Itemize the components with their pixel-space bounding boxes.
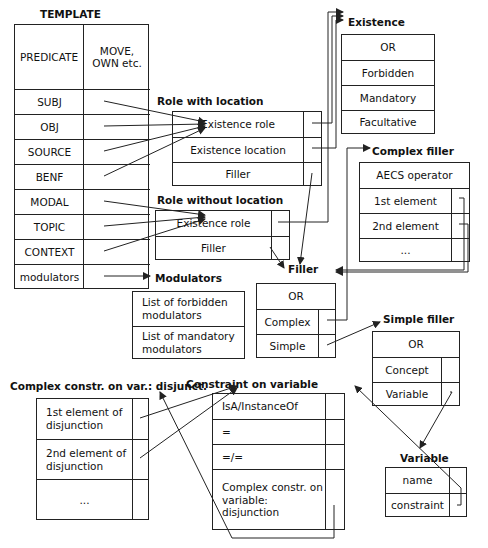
existence-title: Existence — [348, 16, 405, 28]
template-header-row: PREDICATE MOVE, OWN etc. — [15, 25, 150, 89]
complex-constr-divider — [132, 399, 133, 519]
role-with-location-divider — [303, 112, 304, 185]
cov-row-not-equals: =/= — [213, 444, 325, 469]
existence-box: OR Forbidden Mandatory Facultative — [341, 34, 435, 134]
template-right-cells — [84, 89, 150, 289]
constraint-on-variable-divider — [325, 394, 326, 529]
arrow-rwl-existence-role-to-existence — [312, 16, 343, 123]
sf-row-or: OR — [373, 332, 459, 357]
cc-row-2nd-element: 2nd element of disjunction — [37, 439, 132, 479]
cc-row-ellipsis: ... — [37, 479, 132, 520]
cc-row-1st-element: 1st element of disjunction — [37, 399, 132, 439]
cov-row-equals: = — [213, 419, 325, 444]
modulators-title: Modulators — [155, 272, 222, 284]
constraint-on-variable-title: Constraint on variable — [186, 378, 318, 390]
complex-filler-divider — [451, 188, 452, 261]
predicate-value: MOVE, OWN etc. — [84, 25, 150, 89]
rwl-row-existence-location: Existence location — [173, 137, 303, 162]
cov-row-complex-constr: Complex constr. on variable: disjunction — [213, 469, 325, 530]
existence-row-mandatory: Mandatory — [342, 85, 434, 110]
simple-filler-box: OR Concept Variable — [372, 331, 460, 406]
variable-box: name constraint — [385, 467, 467, 517]
simple-filler-title: Simple filler — [383, 313, 454, 325]
complex-constr-title: Complex constr. on var.: disjunct. — [10, 380, 207, 392]
cov-row-isa: IsA/InstanceOf — [213, 394, 325, 419]
template-title: TEMPLATE — [40, 8, 101, 20]
cf-row-aecs-operator: AECS operator — [360, 163, 469, 188]
rwl-row-filler: Filler — [173, 162, 303, 186]
template-row-context: CONTEXT — [15, 239, 84, 264]
filler-row-or: OR — [257, 284, 335, 309]
filler-row-complex: Complex — [257, 309, 318, 334]
role-with-location-box: Existence role Existence location Filler — [172, 111, 322, 186]
var-row-name: name — [386, 468, 449, 493]
role-without-location-box: Existence role Filler — [155, 210, 290, 260]
template-row-benf: BENF — [15, 164, 84, 189]
predicate-label: PREDICATE — [15, 25, 83, 89]
complex-constr-box: 1st element of disjunction 2nd element o… — [36, 398, 149, 520]
rwol-row-filler: Filler — [156, 236, 271, 260]
role-without-location-title: Role without location — [157, 194, 283, 206]
existence-row-forbidden: Forbidden — [342, 60, 434, 85]
modulators-box: List of forbidden modulators List of man… — [132, 291, 245, 359]
template-row-modulators: modulators — [15, 264, 84, 289]
existence-row-facultative: Facultative — [342, 110, 434, 134]
template-row-source: SOURCE — [15, 139, 84, 164]
modulators-row-forbidden: List of forbidden modulators — [133, 292, 244, 326]
constraint-on-variable-box: IsA/InstanceOf = =/= Complex constr. on … — [212, 393, 345, 530]
complex-filler-box: AECS operator 1st element 2nd element ..… — [359, 162, 470, 262]
cf-row-1st-element: 1st element — [360, 188, 451, 213]
variable-divider — [449, 468, 450, 516]
sf-row-variable: Variable — [373, 382, 441, 406]
sf-row-concept: Concept — [373, 357, 441, 382]
complex-filler-title: Complex filler — [372, 145, 454, 157]
filler-row-simple: Simple — [257, 334, 318, 358]
existence-row-or: OR — [342, 35, 434, 60]
rwl-row-existence-role: Existence role — [173, 112, 303, 137]
template-row-modal: MODAL — [15, 189, 84, 214]
var-row-constraint: constraint — [386, 493, 449, 517]
rwol-row-existence-role: Existence role — [156, 211, 271, 236]
role-with-location-title: Role with location — [157, 95, 264, 107]
arrow-rwl-filler-to-filler — [300, 173, 312, 264]
template-row-obj: OBJ — [15, 114, 84, 139]
cf-row-ellipsis: ... — [360, 238, 451, 262]
simple-filler-divider — [441, 357, 442, 405]
filler-title: Filler — [288, 263, 318, 275]
role-without-location-divider — [271, 211, 272, 259]
filler-box: OR Complex Simple — [256, 283, 336, 358]
variable-title: Variable — [400, 452, 449, 464]
template-box: PREDICATE MOVE, OWN etc. SUBJ OBJ SOURCE… — [14, 24, 149, 289]
template-row-topic: TOPIC — [15, 214, 84, 239]
filler-divider — [318, 309, 319, 357]
cf-row-2nd-element: 2nd element — [360, 213, 451, 238]
template-row-subj: SUBJ — [15, 89, 84, 114]
modulators-row-mandatory: List of mandatory modulators — [133, 326, 244, 359]
